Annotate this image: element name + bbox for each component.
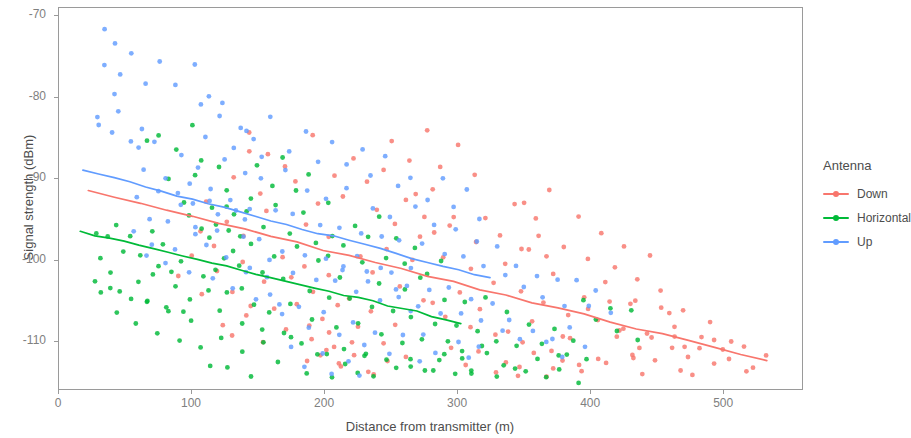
data-point xyxy=(430,187,435,192)
data-point xyxy=(659,305,664,310)
data-point xyxy=(244,129,249,134)
data-point xyxy=(396,295,401,300)
data-point xyxy=(371,206,376,211)
data-point xyxy=(102,63,107,68)
x-tick-mark xyxy=(324,390,325,394)
data-point xyxy=(254,297,259,302)
data-point xyxy=(166,219,171,224)
data-point xyxy=(469,297,474,302)
data-point xyxy=(173,284,178,289)
data-point xyxy=(216,212,221,217)
data-point xyxy=(396,184,401,189)
data-point xyxy=(244,313,249,318)
data-point xyxy=(460,349,465,354)
data-point xyxy=(267,258,272,263)
data-point xyxy=(535,357,540,362)
data-point xyxy=(231,146,236,151)
data-point xyxy=(230,286,235,291)
data-point xyxy=(163,261,168,266)
data-point xyxy=(98,256,103,261)
data-point xyxy=(138,253,143,258)
data-point xyxy=(464,187,469,192)
data-point xyxy=(472,172,477,177)
data-point xyxy=(260,327,265,332)
data-point xyxy=(400,341,405,346)
data-point xyxy=(261,340,266,345)
data-point xyxy=(371,374,376,379)
data-point xyxy=(117,289,122,294)
data-point xyxy=(231,175,236,180)
data-point xyxy=(518,337,523,342)
data-point xyxy=(206,288,211,293)
data-point xyxy=(522,200,527,205)
data-point xyxy=(243,217,248,222)
data-point xyxy=(451,205,456,210)
data-point xyxy=(369,309,374,314)
data-point xyxy=(708,320,713,325)
data-point xyxy=(442,252,447,257)
data-point xyxy=(393,322,398,327)
data-point xyxy=(533,216,538,221)
data-point xyxy=(277,302,282,307)
data-point xyxy=(388,215,393,220)
data-point xyxy=(217,165,222,170)
data-point xyxy=(438,311,443,316)
data-point xyxy=(391,309,396,314)
data-point xyxy=(364,269,369,274)
data-point xyxy=(454,323,459,328)
data-point xyxy=(498,233,503,238)
data-point xyxy=(516,373,521,378)
data-point xyxy=(247,149,252,154)
data-point xyxy=(513,366,518,371)
data-point xyxy=(208,364,213,369)
data-point xyxy=(228,198,233,203)
data-point xyxy=(566,313,571,318)
data-point xyxy=(266,152,271,157)
data-point xyxy=(342,347,347,352)
data-point xyxy=(494,339,499,344)
y-tick-label: -70 xyxy=(6,7,46,21)
data-point xyxy=(166,309,171,314)
data-point xyxy=(583,344,588,349)
data-point xyxy=(294,188,299,193)
data-point xyxy=(344,186,349,191)
legend-item-down[interactable]: Down xyxy=(823,182,911,206)
data-point xyxy=(446,339,451,344)
data-point xyxy=(133,321,138,326)
data-point xyxy=(420,337,425,342)
data-point xyxy=(699,335,704,340)
data-point xyxy=(437,358,442,363)
data-point xyxy=(176,191,181,196)
data-point xyxy=(481,264,486,269)
data-point xyxy=(231,249,236,254)
data-point xyxy=(544,254,549,259)
data-point xyxy=(560,334,565,339)
data-point xyxy=(535,274,540,279)
data-point xyxy=(507,318,512,323)
data-point xyxy=(270,184,275,189)
data-point xyxy=(670,345,675,350)
data-point xyxy=(210,276,215,281)
data-point xyxy=(519,247,524,252)
data-point xyxy=(291,271,296,276)
data-point xyxy=(310,317,315,322)
data-point xyxy=(240,349,245,354)
data-point xyxy=(335,303,340,308)
data-point xyxy=(494,370,499,375)
legend-item-up[interactable]: Up xyxy=(823,230,911,254)
data-point xyxy=(129,51,134,56)
data-point xyxy=(276,360,281,365)
legend-item-horizontal[interactable]: Horizontal xyxy=(823,206,911,230)
data-point xyxy=(742,344,747,349)
x-tick-label: 0 xyxy=(38,396,78,410)
data-point xyxy=(603,280,608,285)
data-point xyxy=(640,372,645,377)
data-point xyxy=(302,364,307,369)
y-tick-mark xyxy=(54,341,58,342)
data-point xyxy=(493,332,498,337)
data-point xyxy=(562,304,567,309)
data-point xyxy=(344,162,349,167)
data-point xyxy=(531,329,536,334)
data-point xyxy=(527,322,532,327)
